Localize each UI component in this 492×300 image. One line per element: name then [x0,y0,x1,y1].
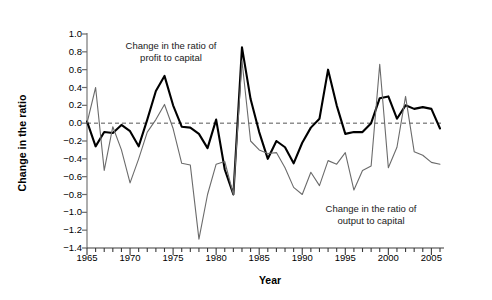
x-tick-label: 2005 [421,252,442,263]
x-tick-label: 1980 [206,252,227,263]
annotation-line: profit to capital [104,52,238,64]
x-tick-label: 1965 [76,252,97,263]
x-tick-label: 1975 [163,252,184,263]
x-tick-label: 1990 [292,252,313,263]
annotation-line: output to capital [304,215,438,227]
x-tick-label: 2000 [378,252,399,263]
chart-figure: Change in the ratio 1.00.80.60.40.20.0−0… [0,0,492,300]
x-axis-title-text: Year [259,274,281,286]
x-tick-label: 1995 [335,252,356,263]
annotation-line: Change in the ratio of [104,40,238,52]
annotation-line: Change in the ratio of [304,203,438,215]
x-tick-label: 1970 [119,252,140,263]
annotation-output-series: Change in the ratio ofoutput to capital [304,203,438,227]
x-tick-label: 1985 [249,252,270,263]
series-line-profit-to-capital [87,47,440,194]
x-axis-tick-labels: 196519701975198019851990199520002005 [0,252,492,268]
annotation-profit-series: Change in the ratio ofprofit to capital [104,40,238,64]
x-axis-title: Year [0,274,492,286]
